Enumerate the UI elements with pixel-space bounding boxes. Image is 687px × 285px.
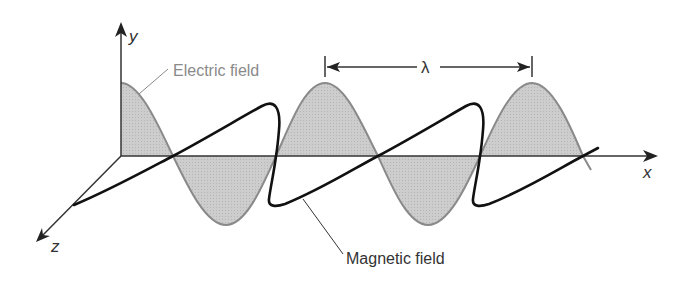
electric-field-wave [121, 83, 591, 225]
z-axis [36, 156, 121, 242]
em-wave-diagram: Electric field Magnetic field λ y x z [0, 0, 687, 285]
electric-leader-line [139, 69, 168, 94]
magnetic-leader-line [303, 199, 343, 254]
z-axis-label: z [50, 237, 60, 256]
electric-field-label: Electric field [173, 62, 259, 79]
x-axis-label: x [642, 163, 652, 182]
magnetic-field-label: Magnetic field [346, 250, 445, 267]
y-axis-label: y [128, 27, 139, 46]
wavelength-label: λ [421, 58, 430, 77]
